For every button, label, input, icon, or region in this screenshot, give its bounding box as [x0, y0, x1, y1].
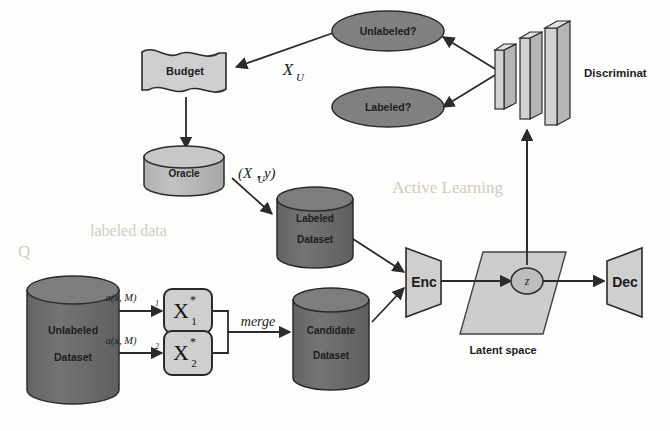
encoder-label: Enc	[411, 274, 437, 290]
node-candidate-dataset[interactable]: Candidate Dataset	[293, 288, 369, 390]
edge-discriminator-to-labeled	[443, 72, 500, 107]
decoder-label: Dec	[612, 274, 638, 290]
edge-labeled-to-enc	[350, 237, 404, 272]
candidate-dataset-top	[293, 288, 369, 312]
edge-oracle-to-labeled	[232, 178, 272, 214]
oracle-top	[144, 146, 224, 168]
latent-z-label: z	[524, 274, 530, 288]
edge-label-acq1-subscript: 1	[155, 299, 159, 308]
node-labeled-question[interactable]: Labeled?	[332, 87, 444, 127]
node-budget[interactable]: Budget	[142, 50, 226, 92]
edge-label-oracle-tail: , y)	[256, 165, 275, 182]
candidate-dataset-line2: Dataset	[313, 350, 350, 361]
latent-space-label: Latent space	[469, 344, 536, 356]
node-x2-star[interactable]: X * 2	[164, 331, 212, 375]
node-unlabeled-question[interactable]: Unlabeled?	[332, 11, 444, 51]
edge-label-xu-subscript: U	[296, 71, 305, 83]
edge-label-acq2-base: a(x, M)	[106, 335, 137, 347]
node-latent-space: Latent space	[460, 252, 566, 356]
edge-x2-to-merge	[212, 332, 228, 353]
node-encoder[interactable]: Enc	[406, 248, 441, 317]
discriminator-bar-3	[545, 21, 570, 125]
edge-discriminator-to-unlabeled	[443, 37, 500, 72]
unlabeled-dataset-body	[27, 290, 119, 404]
x1-star-subscript: 1	[191, 315, 197, 327]
node-decoder[interactable]: Dec	[607, 248, 642, 317]
node-oracle[interactable]: Oracle	[144, 146, 224, 196]
node-latent-z[interactable]: z	[511, 268, 543, 294]
unlabeled-question-label: Unlabeled?	[360, 25, 417, 37]
oracle-label: Oracle	[168, 168, 200, 179]
edge-label-oracle-output: (X U , y)	[238, 165, 276, 185]
edge-candidate-to-enc	[372, 288, 404, 322]
edge-label-acq1-base: a(x, M)	[106, 292, 137, 304]
candidate-dataset-body	[293, 300, 369, 390]
labeled-dataset-top	[277, 187, 353, 211]
budget-label: Budget	[166, 65, 204, 77]
x2-star-superscript: *	[190, 335, 196, 349]
x1-star-superscript: *	[190, 293, 196, 307]
x1-star-base: X	[173, 298, 189, 323]
edge-label-xu-base: X	[282, 60, 294, 79]
labeled-dataset-line2: Dataset	[297, 234, 334, 245]
edge-label-oracle-head: (X	[238, 165, 253, 182]
discriminator-label: Discriminat	[584, 67, 647, 79]
discriminator-bar-1	[495, 44, 516, 109]
node-discriminator[interactable]: Discriminat	[495, 21, 647, 125]
discriminator-bar-2	[520, 32, 542, 119]
unlabeled-dataset-line1: Unlabeled	[48, 324, 98, 336]
node-labeled-dataset[interactable]: Labeled Dataset	[277, 187, 353, 268]
labeled-question-label: Labeled?	[365, 101, 411, 113]
labeled-dataset-line1: Labeled	[296, 213, 334, 224]
edge-label-xu: X U	[282, 60, 305, 83]
candidate-dataset-line1: Candidate	[307, 325, 356, 336]
x2-star-subscript: 2	[191, 357, 197, 369]
unlabeled-dataset-line2: Dataset	[54, 351, 92, 363]
edge-label-acq2-subscript: 2	[155, 342, 159, 351]
latent-space-shape	[460, 252, 566, 334]
x2-star-base: X	[173, 340, 189, 365]
edge-label-merge: merge	[241, 314, 275, 329]
node-x1-star[interactable]: X * 1	[164, 289, 212, 333]
figure-canvas: Active Learning labeled data Q	[0, 0, 670, 431]
architecture-diagram: Latent space Budget Oracle Labeled Datas…	[0, 0, 670, 431]
